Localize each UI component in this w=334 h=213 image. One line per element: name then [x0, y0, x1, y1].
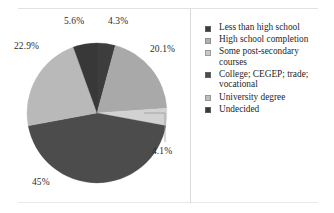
- legend-item[interactable]: University degree: [205, 92, 331, 103]
- slice-label-some-post-secondary: 4.1%: [152, 146, 172, 156]
- legend-item[interactable]: Undecided: [205, 104, 331, 115]
- slice-label-high-school-completion: 20.1%: [150, 44, 175, 54]
- slice-label-undecided: 5.6%: [64, 16, 84, 26]
- legend-item-label: University degree: [219, 92, 285, 103]
- pie-chart-figure: 5.6% 4.3% 22.9% 20.1% 4.1% 45% Less than…: [0, 0, 334, 213]
- legend-swatch-icon: [205, 38, 211, 44]
- slice-label-university-degree: 22.9%: [14, 41, 39, 51]
- legend-item-label: Undecided: [219, 104, 259, 115]
- legend-item[interactable]: High school completion: [205, 34, 331, 45]
- slice-label-college-cegep-trade: 45%: [32, 177, 50, 187]
- legend-swatch-icon: [205, 95, 211, 101]
- legend-swatch-icon: [205, 26, 211, 32]
- legend-item-label: High school completion: [219, 34, 327, 45]
- pie-chart-area: 5.6% 4.3% 22.9% 20.1% 4.1% 45%: [0, 0, 190, 213]
- legend-item[interactable]: Less than high school: [205, 22, 331, 33]
- legend-item-label: College; CEGEP; trade; vocational: [219, 69, 327, 90]
- legend-item[interactable]: College; CEGEP; trade; vocational: [205, 69, 331, 90]
- legend-swatch-icon: [205, 72, 211, 78]
- legend-item-label: Some post-secondary courses: [219, 46, 327, 67]
- pie-chart-svg: [0, 0, 190, 213]
- legend-item[interactable]: Some post-secondary courses: [205, 46, 331, 67]
- legend-swatch-icon: [205, 50, 211, 56]
- slice-label-less-than-high-school: 4.3%: [108, 16, 128, 26]
- pie-slice: [28, 113, 166, 183]
- legend-item-label: Less than high school: [219, 22, 300, 33]
- chart-legend-divider: [190, 9, 191, 203]
- chart-legend: Less than high schoolHigh school complet…: [205, 22, 331, 116]
- legend-swatch-icon: [205, 107, 211, 113]
